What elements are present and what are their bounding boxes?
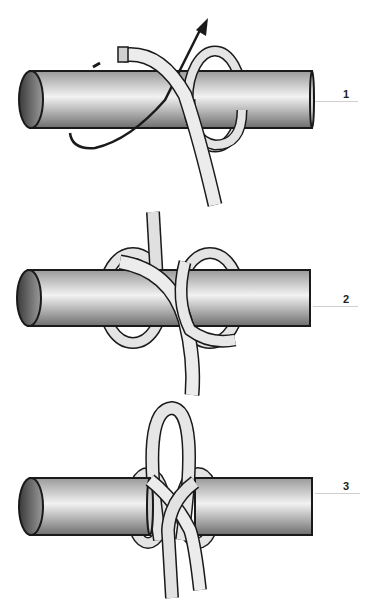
leader-line-1	[315, 101, 358, 102]
step-label-2: 2	[343, 293, 349, 305]
leader-line-2	[313, 306, 358, 307]
step-1-illustration	[19, 18, 314, 205]
bar-end-2	[17, 270, 41, 326]
step-label-1: 1	[343, 88, 349, 100]
step-2-illustration	[17, 212, 310, 395]
step-3-illustration	[19, 408, 312, 598]
knot-diagram	[0, 0, 367, 607]
leader-line-3	[315, 493, 360, 494]
bar-3-right	[195, 478, 312, 535]
step-label-3: 3	[343, 480, 349, 492]
bar-end-1	[19, 71, 43, 128]
bar-3-left	[30, 478, 150, 535]
bar-end-3	[19, 478, 43, 535]
